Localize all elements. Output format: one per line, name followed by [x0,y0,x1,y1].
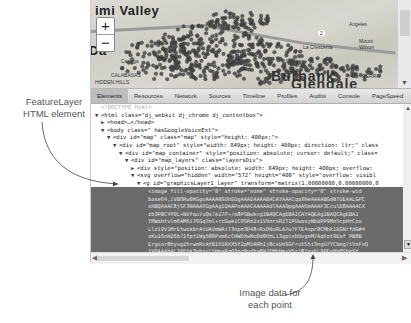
feature-point [163,66,167,70]
page-vertical-scrollbar[interactable]: ▼ [398,0,411,88]
feature-point [257,65,261,69]
image-data-line: <image fill-opacity="0" stroke="none" st… [148,188,402,196]
feature-point [148,53,152,57]
feature-point [265,22,269,26]
feature-point [224,23,228,27]
dom-node-row[interactable]: ▼<div id="map_container" style="position… [91,150,411,158]
feature-point [227,71,231,75]
feature-point [363,78,367,82]
dom-node-text: <!DOCTYPE html> [101,104,152,110]
feature-point [261,21,265,25]
feature-point [154,72,158,76]
feature-point [176,28,180,32]
feature-point [221,63,225,67]
dom-node-row[interactable]: ▼<svg overflow="hidden" width="572" heig… [91,172,411,180]
feature-point [222,16,226,20]
feature-point [175,74,179,78]
feature-point [261,61,265,65]
dom-node-row[interactable]: ▶<head>…</head> [91,119,411,127]
dom-node-row[interactable]: ▼<div id="map_layers" class="layersDiv"> [91,157,411,165]
feature-point [377,74,381,78]
selected-image-node[interactable]: <image fill-opacity="0" stroke="none" st… [148,188,402,252]
feature-point [175,54,179,58]
image-data-line: xHBQAAAC8jSF3NAAA6GgAAgIQAAPoAAACAAAAAdT… [148,203,402,211]
feature-point [185,52,189,56]
elements-vertical-scrollbar[interactable]: ▲ ▼ [403,104,411,252]
feature-point [165,54,169,58]
feature-point [126,70,130,74]
dom-node-row[interactable]: ▼<html class="dj_webkit dj_chrome dj_con… [91,112,411,120]
dom-node-text: <div style="position: absolute; width: 8… [137,165,373,171]
feature-point [155,66,159,70]
dom-node-text: <div id="map" class="map" style="height:… [113,134,278,140]
dom-node-row[interactable]: ▼<body class=" hasGoogleVoiceExt"> [91,127,411,135]
scroll-down-arrow-icon[interactable]: ▼ [401,79,408,86]
feature-point [334,64,338,68]
zoom-out-button[interactable]: − [97,34,114,51]
feature-point [165,41,169,45]
annotation-image-data-line2: each point [230,299,310,311]
feature-point [178,55,182,59]
feature-point [182,25,186,29]
tab-sources[interactable]: Sources [203,89,237,103]
tab-pagespeed[interactable]: PageSpeed [366,89,409,103]
dom-node-row[interactable]: ▼<div id="map_root" style="width: 849px;… [91,142,411,150]
feature-point [153,42,157,46]
feature-point [168,46,172,50]
feature-point [259,70,263,74]
feature-point [169,66,173,70]
feature-point [238,73,242,77]
dom-node-row[interactable]: <!DOCTYPE html> [91,104,411,112]
feature-point [247,27,251,31]
feature-point [234,20,238,24]
scroll-up-arrow-icon[interactable]: ▲ [405,105,411,111]
tab-console[interactable]: Console [332,89,366,103]
tab-profiles[interactable]: Profiles [271,89,303,103]
feature-point [217,67,221,71]
feature-point [190,25,194,29]
feature-point [242,77,246,81]
feature-point [214,12,218,16]
feature-point [157,43,161,47]
image-data-line: base64,iVBORw0KGgoAAAANSUhEUgAAAEAAAABAC… [148,196,402,204]
feature-point [316,56,320,60]
tab-timeline[interactable]: Timeline [237,89,271,103]
feature-point [189,75,193,79]
feature-point [363,74,367,78]
feature-point [286,44,290,48]
dom-node-row[interactable]: ▼<div id="map" class="map" style="height… [91,134,411,142]
dom-node-text: <div id="map_root" style="width: 849px; … [119,142,378,148]
feature-point [233,34,237,38]
tab-resources[interactable]: Resources [128,89,169,103]
tab-elements[interactable]: Elements [91,89,128,103]
zoom-in-button[interactable]: + [97,18,114,34]
horizontal-scrollbar-thumb[interactable] [97,256,189,261]
feature-point [249,11,253,15]
feature-point [272,64,276,68]
feature-point [329,58,333,62]
feature-point [222,52,226,56]
elements-horizontal-scrollbar[interactable]: ◀ ▶ [91,252,411,264]
feature-point [211,40,215,44]
scroll-down-arrow-icon[interactable]: ▼ [404,240,411,249]
feature-point [346,67,350,71]
tab-network[interactable]: Network [169,89,203,103]
feature-point [255,52,259,56]
feature-point [202,71,206,75]
scroll-right-arrow-icon[interactable]: ▶ [402,254,407,262]
feature-point [268,62,272,66]
map[interactable]: imi Valley Da Canoga CALABASAS HIDDEN HI… [91,0,398,88]
page-scrollbar-thumb[interactable] [400,10,410,36]
feature-point [240,22,244,26]
tab-audits[interactable]: Audits [303,89,332,103]
feature-point [277,59,281,63]
feature-point [236,50,240,54]
feature-point [152,77,156,81]
feature-point [181,73,185,77]
feature-point [199,74,203,78]
dom-node-text: <g id="graphicsLayer1_layer" transform="… [143,180,379,186]
dom-node-row[interactable]: ▶<div style="position: absolute; width: … [91,165,411,173]
feature-point [172,57,176,61]
feature-point [262,45,266,49]
feature-point [226,26,230,30]
